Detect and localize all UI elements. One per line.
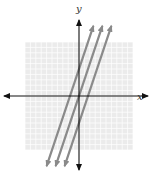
- y-axis-label: y: [75, 3, 82, 14]
- x-axis-label: x: [137, 91, 143, 102]
- coordinate-plane: x y: [0, 0, 167, 176]
